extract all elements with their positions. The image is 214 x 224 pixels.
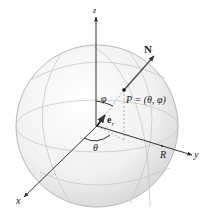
sphere-diagram [0,0,214,224]
x-axis-label: x [16,196,20,206]
phi-label: φ [101,94,107,104]
unit-vector-sub: r [111,120,114,128]
y-axis-label: y [194,150,198,160]
radius-point [161,145,163,147]
radius-label: R [160,150,166,160]
point-label: P = (θ, φ) [126,95,166,105]
unit-vector-label: er [107,115,114,128]
normal-label: N [144,44,152,55]
theta-label: θ [93,143,98,153]
point-p [122,88,126,92]
z-axis-label: z [93,7,96,15]
